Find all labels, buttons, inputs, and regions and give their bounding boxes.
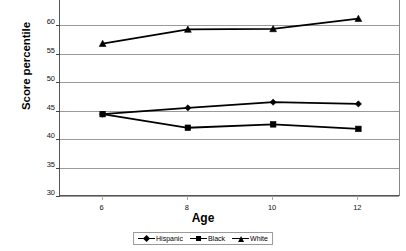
series-line — [103, 114, 359, 129]
x-axis-title: Age — [0, 211, 406, 225]
x-tick-mark — [272, 196, 273, 200]
y-tick-mark — [56, 82, 60, 83]
y-tick-mark — [56, 168, 60, 169]
legend-item-hispanic[interactable]: Hispanic — [138, 234, 183, 243]
legend-item-white[interactable]: White — [232, 234, 268, 243]
data-point-marker — [185, 125, 191, 131]
data-point-marker — [270, 99, 276, 105]
x-tick-mark — [187, 196, 188, 200]
y-tick-mark — [56, 196, 60, 197]
series-line — [103, 102, 359, 114]
y-tick-mark — [56, 25, 60, 26]
y-tick-label: 35 — [31, 161, 55, 169]
series-black — [100, 111, 361, 131]
triangle-icon — [232, 234, 249, 243]
diamond-icon — [138, 234, 155, 243]
y-axis-tick-labels: 3035404550556065 — [31, 0, 55, 196]
series-white — [99, 15, 362, 46]
y-tick-label: 55 — [31, 47, 55, 55]
plot-area — [59, 0, 400, 196]
series-layer — [60, 0, 401, 196]
legend-label: White — [250, 235, 268, 243]
data-point-marker — [100, 111, 106, 117]
x-tick-mark — [102, 196, 103, 200]
y-tick-label: 30 — [31, 189, 55, 197]
data-point-marker — [185, 105, 191, 111]
x-tick-mark — [357, 196, 358, 200]
gridline — [60, 196, 399, 197]
series-line — [103, 19, 359, 44]
y-tick-label: 60 — [31, 18, 55, 26]
legend-item-black[interactable]: Black — [190, 234, 225, 243]
y-tick-mark — [56, 111, 60, 112]
series-hispanic — [100, 99, 362, 117]
y-tick-label: 50 — [31, 75, 55, 83]
data-point-marker — [270, 122, 276, 128]
line-chart: Score percentile 3035404550556065 681012… — [0, 0, 406, 251]
y-tick-label: 40 — [31, 132, 55, 140]
y-tick-label: 45 — [31, 104, 55, 112]
y-tick-mark — [56, 139, 60, 140]
data-point-marker — [356, 126, 362, 132]
data-point-marker — [355, 101, 361, 107]
chart-legend: HispanicBlackWhite — [133, 232, 273, 245]
square-icon — [190, 234, 207, 243]
legend-label: Hispanic — [156, 235, 183, 243]
legend-label: Black — [208, 235, 225, 243]
y-tick-mark — [56, 54, 60, 55]
